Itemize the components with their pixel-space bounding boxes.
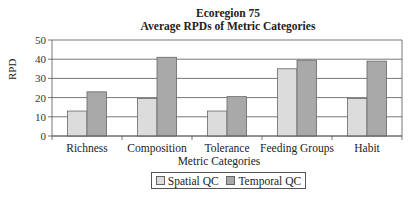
bar-spatial: [278, 69, 298, 136]
legend-label-spatial: Spatial QC: [168, 175, 219, 187]
x-tick-label: Richness: [66, 142, 108, 154]
bar-temporal: [87, 92, 107, 136]
bar-temporal: [227, 97, 247, 136]
legend-label-temporal: Temporal QC: [238, 175, 301, 187]
bar-spatial: [208, 111, 228, 136]
bar-spatial: [138, 99, 158, 136]
legend-swatch-spatial: [156, 176, 165, 185]
y-tick-label: 0: [41, 130, 47, 142]
legend-swatch-temporal: [226, 176, 235, 185]
y-tick-label: 10: [35, 111, 47, 123]
x-tick-label: Composition: [127, 142, 187, 155]
y-tick-label: 30: [35, 72, 47, 84]
legend-item-temporal: Temporal QC: [226, 175, 301, 187]
x-tick-label: Habit: [354, 142, 380, 154]
bar-spatial: [348, 99, 368, 136]
bar-temporal: [157, 57, 177, 136]
y-tick-label: 20: [35, 92, 47, 104]
bar-temporal: [297, 60, 317, 136]
y-axis-label: RPD: [6, 59, 18, 80]
y-tick-label: 40: [35, 53, 47, 65]
x-tick-label: Feeding Groups: [260, 142, 334, 155]
x-tick-label: Tolerance: [204, 142, 249, 154]
bar-temporal: [367, 61, 387, 136]
y-tick-label: 50: [35, 34, 47, 46]
legend: Spatial QC Temporal QC: [151, 172, 306, 189]
bar-spatial: [68, 111, 88, 136]
bar-chart-plot: 01020304050RichnessCompositionToleranceF…: [0, 0, 420, 201]
x-axis-label: Metric Categories: [0, 155, 420, 167]
legend-item-spatial: Spatial QC: [156, 175, 219, 187]
